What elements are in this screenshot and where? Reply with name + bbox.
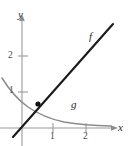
x-tick-label-1: 1 [50,132,55,142]
curve-label-g: g [71,99,77,110]
x-axis-arrowhead [111,125,118,131]
y-axis-label: y [18,9,23,20]
intersection-point [35,101,40,106]
curve-label-f: f [89,31,92,42]
y-tick-label-2: 2 [8,51,13,61]
curve-g [2,78,111,126]
y-tick-label-1: 1 [9,86,14,96]
curve-f [13,24,113,137]
plot-canvas [0,0,128,146]
x-axis-label: x [118,122,123,133]
x-tick-label-2: 2 [83,132,88,142]
graph-figure: y x f g 2 1 1 2 [0,0,128,146]
